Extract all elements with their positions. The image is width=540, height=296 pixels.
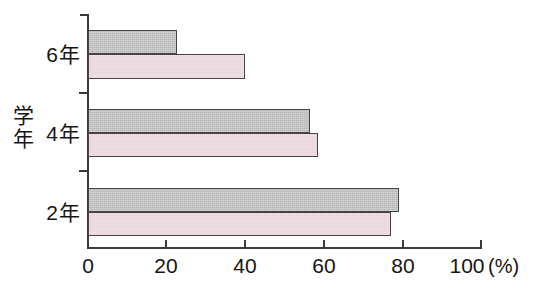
- bar-gray-2nen: [88, 188, 399, 212]
- category-label-2nen: 2年: [8, 202, 88, 223]
- x-axis-unit-label: (%): [488, 255, 519, 277]
- bar-pink-4nen: [88, 133, 318, 157]
- bar-pink-2nen: [88, 212, 391, 236]
- x-axis-tick-0: [87, 240, 89, 248]
- x-axis-line: [87, 247, 482, 249]
- x-tick-label-0: 0: [82, 255, 94, 277]
- category-label-6nen: 6年: [8, 44, 88, 65]
- bar-chart: 学 年 6年 4年 2年 0 20 40 60 80 100 (%): [0, 0, 540, 296]
- x-axis-tick-20: [165, 240, 167, 248]
- x-tick-label-40: 40: [233, 255, 256, 277]
- x-tick-label-20: 20: [154, 255, 177, 277]
- y-axis-tick: [79, 170, 88, 172]
- x-axis-tick-80: [402, 240, 404, 248]
- x-axis-tick-100: [480, 240, 482, 248]
- x-tick-label-100: 100: [449, 255, 484, 277]
- x-axis-tick-40: [244, 240, 246, 248]
- x-tick-label-60: 60: [312, 255, 335, 277]
- x-tick-label-80: 80: [391, 255, 414, 277]
- y-axis-tick: [79, 92, 88, 94]
- category-label-4nen: 4年: [8, 123, 88, 144]
- x-axis-tick-60: [323, 240, 325, 248]
- bar-gray-6nen: [88, 30, 177, 54]
- y-axis-top-cap: [80, 14, 88, 16]
- bar-gray-4nen: [88, 109, 310, 133]
- bar-pink-6nen: [88, 54, 245, 79]
